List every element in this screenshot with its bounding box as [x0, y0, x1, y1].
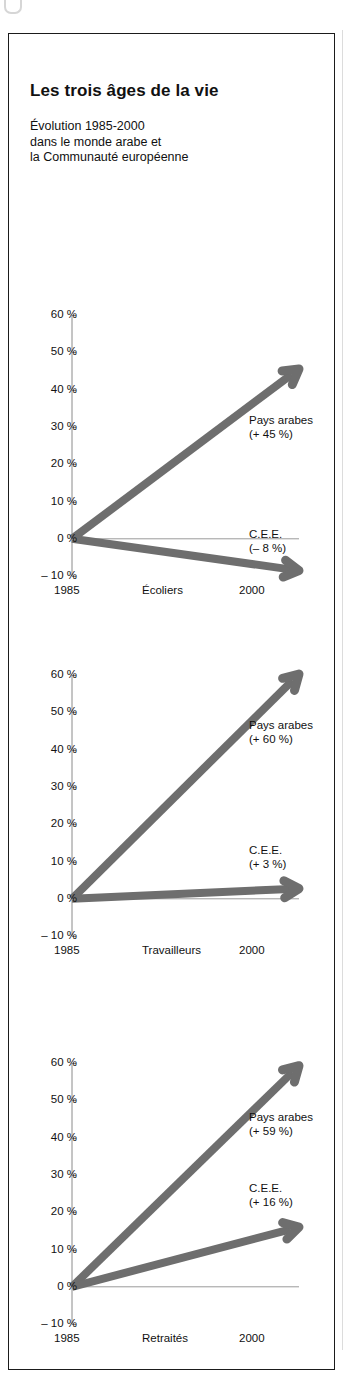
- x-axis-label-start: 1985: [54, 1332, 80, 1344]
- annotation-pays-arabes: Pays arabes (+ 45 %): [249, 413, 313, 441]
- y-axis-label: 30 %: [29, 780, 77, 792]
- x-axis-category-label: Retraités: [142, 1332, 188, 1344]
- y-axis-label: 40 %: [29, 1131, 77, 1143]
- y-axis-label: 60 %: [29, 1056, 77, 1068]
- y-axis-label: 60 %: [29, 308, 77, 320]
- annotation-series-value: (+ 59 %): [249, 1124, 313, 1138]
- y-axis-label: 60 %: [29, 668, 77, 680]
- scan-artifact-glyph: [4, 0, 22, 14]
- annotation-series-value: (+ 16 %): [249, 1195, 293, 1209]
- y-axis-label: 30 %: [29, 420, 77, 432]
- annotation-series-label: Pays arabes: [249, 718, 313, 732]
- annotation-series-value: (+ 45 %): [249, 427, 313, 441]
- annotation-pays-arabes: Pays arabes (+ 60 %): [249, 718, 313, 746]
- page-title: Les trois âges de la vie: [30, 81, 219, 101]
- chart-panel: 60 % 50 % 40 % 30 %: [9, 906, 336, 1378]
- y-axis-label: 20 %: [29, 457, 77, 469]
- annotation-series-label: C.E.E.: [249, 843, 286, 857]
- y-axis-label: 50 %: [29, 345, 77, 357]
- y-axis-label: 20 %: [29, 817, 77, 829]
- annotation-series-value: (+ 60 %): [249, 732, 313, 746]
- y-axis-label: 0 %: [29, 892, 77, 904]
- y-axis-label: 20 %: [29, 1205, 77, 1217]
- y-axis-label: 10 %: [29, 1243, 77, 1255]
- figure-frame: Les trois âges de la vie Évolution 1985-…: [8, 33, 335, 1370]
- y-axis-label: – 10 %: [29, 1317, 77, 1329]
- annotation-pays-arabes: Pays arabes (+ 59 %): [249, 1110, 313, 1138]
- y-axis-label: 50 %: [29, 1093, 77, 1105]
- y-axis-label: 30 %: [29, 1168, 77, 1180]
- annotation-series-label: Pays arabes: [249, 413, 313, 427]
- y-axis-label: 10 %: [29, 855, 77, 867]
- scan-artifact-edge: [342, 30, 343, 1350]
- annotation-series-label: Pays arabes: [249, 1110, 313, 1124]
- arrow-cee: [72, 881, 299, 899]
- arrow-pays-arabes: [72, 369, 299, 539]
- annotation-series-value: (+ 3 %): [249, 857, 286, 871]
- y-axis-label: 0 %: [29, 1280, 77, 1292]
- x-axis-label-end: 2000: [239, 1332, 265, 1344]
- annotation-series-label: C.E.E.: [249, 1181, 293, 1195]
- y-axis-label: 40 %: [29, 743, 77, 755]
- subtitle-line-1: Évolution 1985-2000: [30, 119, 188, 135]
- annotation-cee: C.E.E. (+ 3 %): [249, 843, 286, 871]
- annotation-cee: C.E.E. (+ 16 %): [249, 1181, 293, 1209]
- y-axis-label: 50 %: [29, 705, 77, 717]
- y-axis-label: 40 %: [29, 383, 77, 395]
- y-axis-label: 10 %: [29, 495, 77, 507]
- subtitle-line-2: dans le monde arabe et: [30, 135, 188, 151]
